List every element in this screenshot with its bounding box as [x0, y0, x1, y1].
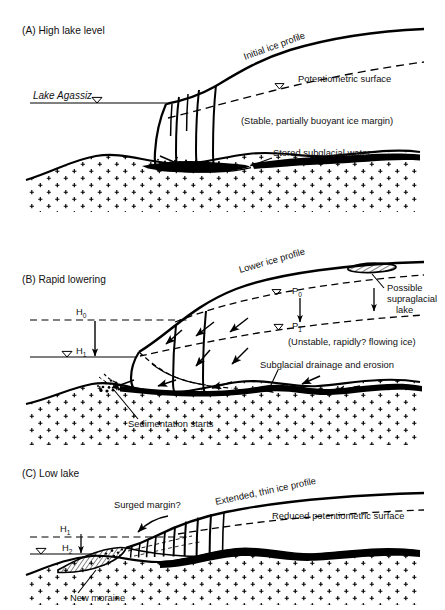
- surged-margin-label: Surged margin?: [114, 499, 181, 510]
- subglacial-drainage-label: Subglacial drainage and erosion: [260, 359, 394, 370]
- figure-glacial-lake-cross-sections: (A) High lake level Lake Agassiz: [0, 0, 445, 610]
- panel-c-title: (C) Low lake: [22, 468, 80, 479]
- supraglacial-lake-label-line3: lake: [396, 304, 413, 315]
- supraglacial-lake-b: [348, 263, 396, 272]
- stored-subglacial-water-label: Stored subglacial water: [273, 147, 370, 158]
- supraglacial-lake-label-line1: Possible: [387, 282, 422, 293]
- stable-margin-note: (Stable, partially buoyant ice margin): [241, 115, 393, 126]
- unstable-flow-note: (Unstable, rapidly? flowing ice): [288, 336, 416, 347]
- sedimentation-starts-label: Sedimentation starts: [128, 418, 214, 429]
- supraglacial-lake-label-line2: supraglacial: [387, 293, 437, 304]
- reduced-potentiometric-label: Reduced potentiometric surface: [272, 510, 404, 521]
- potentiometric-surface-label-a: Potentiometric surface: [298, 73, 391, 84]
- lake-agassiz-label: Lake Agassiz: [33, 90, 92, 101]
- new-moraine-label: New moraine: [70, 592, 125, 603]
- panel-a-title: (A) High lake level: [22, 25, 105, 36]
- panel-b-title: (B) Rapid lowering: [22, 274, 106, 285]
